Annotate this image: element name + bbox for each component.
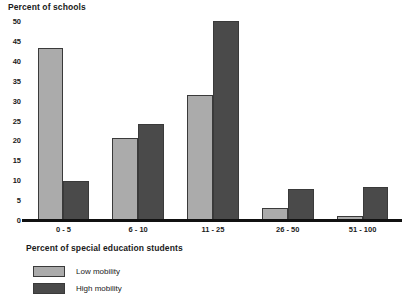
legend-label: High mobility	[76, 284, 122, 293]
x-axis-line	[22, 219, 402, 222]
y-axis-tick-label: 30	[13, 96, 21, 105]
bar-high-mobility	[363, 187, 389, 220]
plot-area: 05101520253035404550	[26, 21, 400, 220]
y-axis-title: Percent of schools	[8, 2, 86, 12]
bar-high-mobility	[288, 189, 314, 220]
bar-chart: Percent of schools 05101520253035404550 …	[0, 0, 408, 299]
footnote-text	[33, 293, 403, 299]
bar-low-mobility	[38, 48, 64, 220]
x-axis-tick-label: 26 - 50	[276, 225, 299, 234]
legend-swatch-low-mobility	[33, 266, 65, 277]
y-axis-tick-label: 20	[13, 136, 21, 145]
y-axis-tick-label: 0	[17, 216, 21, 225]
y-axis-tick-label: 10	[13, 176, 21, 185]
x-axis-tick-label: 0 - 5	[56, 225, 71, 234]
bar-high-mobility	[63, 181, 89, 220]
bar-low-mobility	[187, 95, 213, 220]
x-axis-title: Percent of special education students	[26, 243, 183, 253]
y-axis-tick-label: 25	[13, 116, 21, 125]
legend-label: Low mobility	[76, 267, 120, 276]
y-axis-tick-label: 45	[13, 36, 21, 45]
y-axis-tick-label: 50	[13, 17, 21, 26]
bar-low-mobility	[112, 138, 138, 220]
x-axis-tick-label: 11 - 25	[202, 225, 225, 234]
y-axis-tick-label: 15	[13, 156, 21, 165]
bar-high-mobility	[213, 21, 239, 220]
y-axis-tick-label: 5	[17, 196, 21, 205]
legend-item: Low mobility	[33, 264, 122, 279]
x-axis-tick-label: 51 - 100	[349, 225, 377, 234]
x-axis-tick-label: 6 - 10	[129, 225, 148, 234]
bar-high-mobility	[138, 124, 164, 220]
y-axis-tick-label: 35	[13, 76, 21, 85]
y-axis-tick-label: 40	[13, 56, 21, 65]
